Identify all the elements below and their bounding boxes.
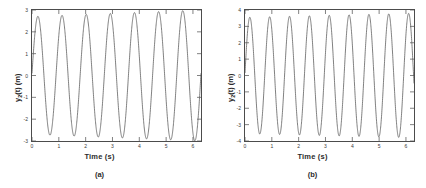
y-axis-label-b-rest: (t) (m) <box>226 74 235 95</box>
y-tick-label: 4 <box>223 8 241 13</box>
figure-root: -3-2-10123 0123456 y2(t) (m) Time (s) (a… <box>0 0 426 188</box>
y-tick-label: -3 <box>10 139 28 144</box>
y-axis-label-b-var: y <box>226 98 235 102</box>
x-tick-label: 2 <box>297 144 300 149</box>
y-tick-label: 3 <box>223 24 241 29</box>
x-tick-label: 3 <box>111 144 114 149</box>
caption-a: (a) <box>14 170 185 179</box>
x-tick-label: 0 <box>31 144 34 149</box>
panel-b: -4-3-2-101234 0123456 y2(t) (m) Time (s)… <box>213 0 426 188</box>
plot-area-a <box>31 9 202 142</box>
y-tick-label: -2 <box>223 106 241 111</box>
y-tick-label: 2 <box>223 40 241 45</box>
x-axis-label-b: Time (s) <box>227 152 398 161</box>
x-tick-label: 1 <box>57 144 60 149</box>
x-tick-label: 2 <box>84 144 87 149</box>
y-tick-label: -2 <box>10 117 28 122</box>
panel-a: -3-2-10123 0123456 y2(t) (m) Time (s) (a… <box>0 0 213 188</box>
x-tick-label: 5 <box>378 144 381 149</box>
y-axis-label-a-sub: 2 <box>17 95 23 98</box>
x-tick-label: 5 <box>165 144 168 149</box>
y-axis-label-a-rest: (t) (m) <box>13 74 22 95</box>
y-tick-label: 1 <box>223 57 241 62</box>
waveform-a <box>32 10 201 141</box>
x-tick-label: 3 <box>324 144 327 149</box>
x-tick-label: 6 <box>405 144 408 149</box>
y-tick-label: -3 <box>223 122 241 127</box>
x-tick-label: 0 <box>244 144 247 149</box>
y-tick-label: 1 <box>10 51 28 56</box>
y-tick-label: -4 <box>223 139 241 144</box>
waveform-b <box>245 10 414 141</box>
y-axis-label-a: y2(t) (m) <box>13 74 22 102</box>
series-line <box>245 13 414 137</box>
y-axis-label-a-var: y <box>13 98 22 102</box>
y-tick-label: 2 <box>10 29 28 34</box>
x-tick-label: 4 <box>138 144 141 149</box>
plot-area-b <box>244 9 415 142</box>
y-tick-label: 3 <box>10 8 28 13</box>
series-line <box>32 11 201 141</box>
caption-b: (b) <box>227 170 398 179</box>
y-axis-label-b-sub: 2 <box>230 95 236 98</box>
x-tick-label: 6 <box>192 144 195 149</box>
x-axis-label-a: Time (s) <box>14 152 185 161</box>
y-axis-label-b: y2(t) (m) <box>226 74 235 102</box>
x-tick-label: 4 <box>351 144 354 149</box>
x-tick-label: 1 <box>270 144 273 149</box>
